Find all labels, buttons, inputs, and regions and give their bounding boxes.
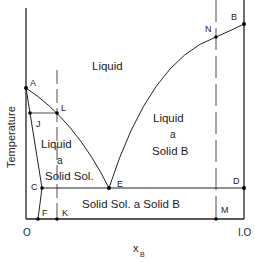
region-liquid-solid-b-line2: a — [170, 129, 176, 140]
label-b: B — [231, 12, 237, 22]
x-tick-0: O — [23, 227, 31, 238]
label-k: K — [62, 208, 68, 218]
label-a: A — [30, 78, 36, 88]
region-liquid: Liquid — [92, 60, 123, 72]
point-e — [107, 186, 111, 190]
point-a — [24, 86, 28, 90]
region-solid-sol-solid-b: Solid Sol. a Solid B — [82, 198, 180, 210]
region-liquid-solid-sol-line3: Solid Sol. — [45, 170, 94, 182]
y-axis-label: Temperature — [5, 106, 17, 168]
x-axis-label: x — [133, 242, 139, 254]
phase-diagram: A B N L J C E D F K M Liquid Liquid a So… — [0, 0, 255, 262]
label-j: J — [36, 119, 41, 129]
region-liquid-solid-sol-line2: a — [57, 155, 63, 166]
solidus-a-c — [26, 88, 42, 188]
label-n: N — [205, 24, 212, 34]
label-f: F — [42, 208, 48, 218]
region-liquid-solid-sol-line1: Liquid — [41, 138, 72, 150]
point-k — [55, 217, 59, 221]
label-c: C — [31, 182, 38, 192]
point-f — [36, 217, 40, 221]
x-tick-1: I.O — [238, 227, 252, 238]
label-e: E — [117, 179, 123, 189]
label-d: D — [233, 176, 240, 186]
point-b — [242, 22, 246, 26]
region-liquid-solid-b-line1: Liquid — [153, 112, 184, 124]
label-l: L — [61, 103, 66, 113]
region-liquid-solid-b-line3: Solid B — [152, 145, 189, 157]
point-j — [28, 111, 32, 115]
label-m: M — [221, 205, 229, 215]
point-l — [55, 111, 59, 115]
point-m — [214, 217, 218, 221]
point-n — [214, 35, 218, 39]
point-d — [242, 186, 246, 190]
point-c — [40, 186, 44, 190]
liquidus-e-b — [109, 24, 244, 188]
x-axis-label-subscript: B — [140, 251, 145, 258]
